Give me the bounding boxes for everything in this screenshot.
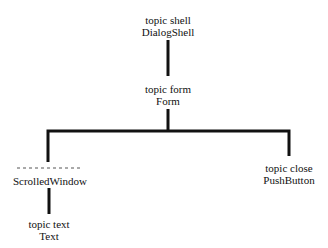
node-form: topic form Form <box>128 83 208 107</box>
node-name-label: topic shell <box>128 14 208 26</box>
node-class-label: DialogShell <box>128 26 208 38</box>
node-class-label: Form <box>128 95 208 107</box>
node-dialog-shell: topic shell DialogShell <box>128 14 208 38</box>
edge-bus-horizontal <box>48 131 289 162</box>
node-text: topic text Text <box>10 218 88 242</box>
node-name-label: topic close <box>250 162 328 174</box>
node-scrolled-window: ScrolledWindow <box>4 175 96 187</box>
node-name-label: topic form <box>128 83 208 95</box>
node-class-label: ScrolledWindow <box>4 175 96 187</box>
node-push-button: topic close PushButton <box>250 162 328 186</box>
node-name-label: topic text <box>10 218 88 230</box>
node-class-label: Text <box>10 230 88 242</box>
node-class-label: PushButton <box>250 174 328 186</box>
